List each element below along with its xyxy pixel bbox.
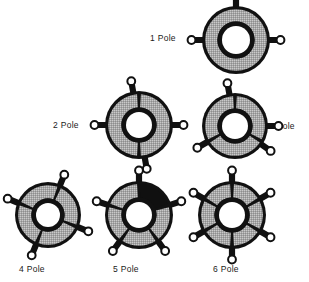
three-pole-center-bore <box>222 113 248 139</box>
six-pole-lug-5-hole <box>190 233 198 241</box>
five-pole-diagram <box>93 167 185 255</box>
five-pole-center-bore <box>126 202 152 228</box>
five-pole-lug-4-hole <box>109 247 117 255</box>
one-pole-lug-3-hole <box>188 36 196 44</box>
one-pole-diagram <box>188 0 285 74</box>
pole-laminations-figure <box>0 0 309 282</box>
six-pole-lug-4-hole <box>228 256 236 264</box>
six-pole-lug-2-hole <box>267 189 275 197</box>
two-pole-center-bore <box>126 112 152 138</box>
four-pole-center-bore <box>36 203 60 227</box>
three-pole-lug-2-hole <box>275 122 283 130</box>
three-pole-lug-3-hole <box>267 147 275 155</box>
four-pole-lug-3-hole <box>28 251 36 259</box>
five-pole-lug-3-hole <box>161 247 169 255</box>
six-pole-diagram <box>190 167 275 264</box>
two-pole-diagram <box>91 77 188 172</box>
one-pole-lug-2-hole <box>277 36 285 44</box>
four-pole-diagram <box>4 171 92 259</box>
three-pole-lug-1-hole <box>224 79 232 87</box>
four-pole-lug-2-hole <box>84 227 92 235</box>
six-pole-lug-6-hole <box>190 189 198 197</box>
four-pole-lug-1-hole <box>60 171 68 179</box>
five-pole-lug-5-hole <box>93 197 101 205</box>
five-pole-lug-2-hole <box>177 197 185 205</box>
six-pole-lug-1-hole <box>228 167 236 175</box>
six-pole-center-bore <box>219 202 245 228</box>
five-pole-lug-1-hole <box>135 167 143 175</box>
two-pole-lug-4-hole <box>143 165 151 173</box>
three-pole-lug-4-hole <box>193 144 201 152</box>
three-pole-diagram <box>193 79 282 159</box>
two-pole-lug-2-hole <box>180 121 188 129</box>
two-pole-lug-1-hole <box>127 77 135 85</box>
one-pole-center-bore <box>222 26 250 54</box>
two-pole-lug-3-hole <box>91 121 99 129</box>
six-pole-lug-3-hole <box>267 233 275 241</box>
four-pole-lug-4-hole <box>4 195 12 203</box>
